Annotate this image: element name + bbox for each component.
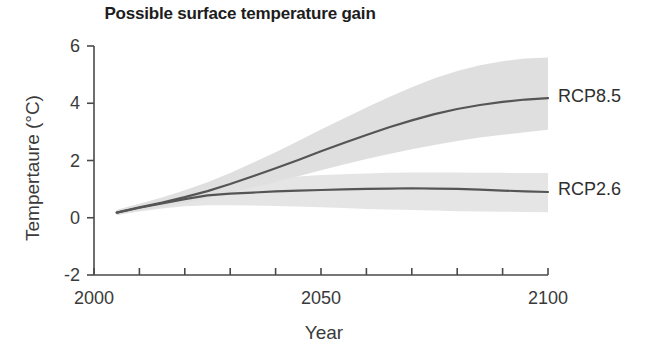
x-tick-label: 2050 <box>286 289 356 307</box>
series-label-rcp85: RCP8.5 <box>558 86 621 107</box>
y-tick-label: 2 <box>46 152 80 170</box>
series-label-rcp26: RCP2.6 <box>558 179 621 200</box>
y-tick-label: -2 <box>46 266 80 284</box>
x-tick-label: 2000 <box>59 289 129 307</box>
uncertainty-bands <box>117 57 548 214</box>
chart-figure: Possible surface temperature gain Temper… <box>0 0 659 359</box>
y-tick-label: 6 <box>46 37 80 55</box>
uncertainty-band-rcp2-6 <box>117 173 548 215</box>
x-tick-label: 2100 <box>513 289 583 307</box>
y-tick-label: 4 <box>46 94 80 112</box>
y-tick-label: 0 <box>46 209 80 227</box>
